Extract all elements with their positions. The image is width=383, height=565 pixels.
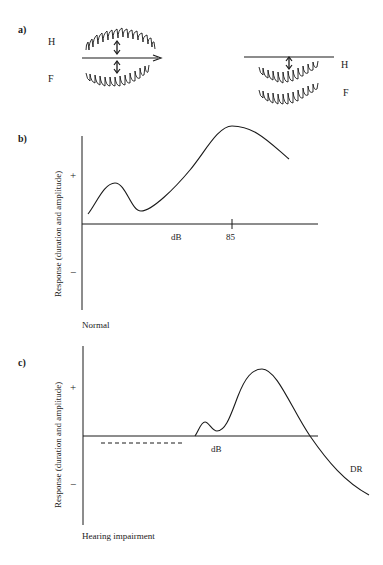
panel-c-label: c) bbox=[18, 357, 26, 369]
y-axis-label: Response (duration and amplitude) bbox=[53, 171, 63, 297]
minus-sign: − bbox=[70, 266, 76, 278]
figure: a) H F H F bbox=[0, 0, 383, 565]
plus-sign: + bbox=[70, 381, 76, 393]
x-tick-label: 85 bbox=[226, 232, 236, 242]
panel-b-caption: Normal bbox=[82, 320, 110, 330]
double-arrow-icon bbox=[114, 61, 120, 73]
double-arrow-icon bbox=[286, 57, 292, 69]
right-f-label: F bbox=[343, 87, 349, 98]
y-axis-label: Response (duration and amplitude) bbox=[53, 382, 63, 508]
hair-cell-wave-upper bbox=[86, 28, 155, 50]
panel-a: a) H F H F bbox=[18, 24, 349, 104]
minus-sign: − bbox=[70, 478, 76, 490]
panel-b: b) dB 85 + − Response (duration and ampl… bbox=[18, 126, 318, 330]
x-axis-label: dB bbox=[171, 232, 182, 242]
panel-c-caption: Hearing impairment bbox=[82, 531, 155, 541]
impaired-response-curve bbox=[195, 369, 369, 495]
double-arrow-icon bbox=[114, 41, 120, 54]
panel-b-label: b) bbox=[18, 133, 27, 145]
panel-c: c) dB + − Response (duration and amplitu… bbox=[18, 346, 369, 541]
plus-sign: + bbox=[70, 169, 76, 181]
right-h-label: H bbox=[341, 59, 348, 70]
left-h-label: H bbox=[48, 36, 55, 47]
hair-cell-wave-lower-right bbox=[259, 83, 318, 104]
panel-a-label: a) bbox=[18, 24, 26, 36]
normal-response-curve bbox=[88, 126, 289, 214]
left-f-label: F bbox=[48, 73, 54, 84]
x-axis-label: dB bbox=[211, 444, 222, 454]
dr-label: DR bbox=[350, 464, 363, 474]
